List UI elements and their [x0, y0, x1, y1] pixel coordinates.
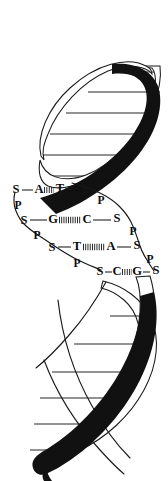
row2-left-sugar: S — [21, 213, 28, 227]
base-pair-row-2: S G C S — [21, 211, 121, 227]
row3-right-base: A — [106, 239, 115, 253]
row2-left-base: G — [48, 212, 58, 226]
phosphate-right-3: P — [146, 253, 153, 265]
row4-left-sugar: S — [97, 264, 104, 278]
dna-helix-illustration: S A T S S G C S S T A S — [0, 0, 168, 481]
row3-left-base: T — [73, 239, 82, 253]
row1-right-sugar: S — [75, 180, 82, 194]
phosphate-left-3: P — [73, 257, 80, 269]
row3-left-sugar: S — [49, 240, 56, 254]
phosphate-right-1: P — [97, 194, 104, 206]
row1-right-base: T — [56, 181, 65, 195]
row2-right-base: C — [82, 212, 91, 226]
phosphate-left-1: P — [14, 199, 21, 211]
row4-right-base: G — [132, 264, 142, 278]
row3-right-sugar: S — [134, 238, 141, 252]
row1-left-sugar: S — [13, 182, 20, 196]
row2-right-sugar: S — [114, 211, 121, 225]
phosphate-left-2: P — [33, 229, 40, 241]
row4-left-base: C — [112, 264, 121, 278]
phosphate-right-2: P — [129, 225, 136, 237]
row1-left-base: A — [34, 182, 43, 196]
phosphate-labels-left: P P P — [14, 199, 80, 269]
phosphate-labels-right: P P P — [97, 194, 153, 265]
dna-double-helix-figure: S A T S S G C S S T A S — [0, 0, 168, 481]
row4-right-sugar: S — [153, 263, 160, 277]
bottom-helix-turn — [30, 276, 157, 481]
